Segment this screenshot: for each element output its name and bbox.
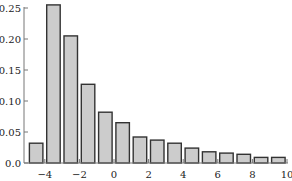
bar-chart: 0.00.050.100.150.200.25 −4−20246810 xyxy=(0,0,292,181)
y-tick-label: 0.25 xyxy=(0,3,21,14)
bar xyxy=(81,84,95,163)
x-tick-label: −4 xyxy=(37,169,52,180)
x-tick-label: −2 xyxy=(72,169,87,180)
bar xyxy=(185,148,199,163)
y-tick-label: 0.15 xyxy=(0,65,21,76)
bar xyxy=(99,112,113,163)
bar xyxy=(116,123,129,163)
bar xyxy=(220,153,234,163)
bar xyxy=(133,137,147,163)
bars-group xyxy=(29,5,285,163)
bar xyxy=(202,152,216,163)
y-tick-label: 0.10 xyxy=(0,96,21,107)
x-tick-label: 4 xyxy=(180,169,186,180)
y-tick-label: 0.0 xyxy=(5,158,21,169)
bar xyxy=(168,143,182,163)
bar xyxy=(254,157,267,163)
y-tick-label: 0.20 xyxy=(0,34,21,45)
bar xyxy=(151,140,165,163)
x-tick-label: 8 xyxy=(249,169,255,180)
x-tick-label: 0 xyxy=(111,169,117,180)
x-tick-label: 2 xyxy=(145,169,151,180)
y-tick-label: 0.05 xyxy=(0,127,21,138)
bar xyxy=(237,154,251,163)
bar xyxy=(64,36,78,163)
bar xyxy=(47,5,61,163)
y-axis: 0.00.050.100.150.200.25 xyxy=(0,3,28,169)
x-tick-label: 10 xyxy=(281,169,292,180)
bar xyxy=(29,143,43,163)
bar xyxy=(272,157,286,163)
x-tick-label: 6 xyxy=(215,169,221,180)
